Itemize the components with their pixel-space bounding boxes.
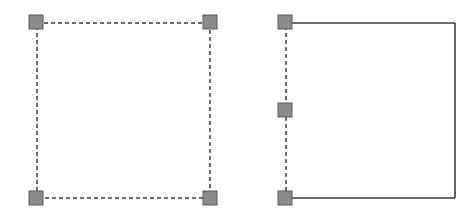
selection-handle-1[interactable] <box>278 103 292 117</box>
rectangle-all-edges-selected <box>29 15 217 205</box>
selection-handle-1[interactable] <box>203 15 217 29</box>
diagram-canvas <box>0 0 473 219</box>
rectangle-left-edge-selected <box>278 15 455 205</box>
selection-handle-0[interactable] <box>29 15 43 29</box>
selection-handle-2[interactable] <box>278 191 292 205</box>
selection-handle-0[interactable] <box>278 15 292 29</box>
selection-handle-3[interactable] <box>203 191 217 205</box>
selection-handle-2[interactable] <box>29 191 43 205</box>
